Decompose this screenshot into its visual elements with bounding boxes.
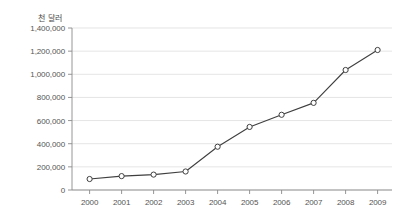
line-chart: 천 달러 0200,000400,000600,000800,0001,000,… [0, 0, 408, 221]
x-axis-tick-marks [90, 190, 378, 194]
series-line [90, 50, 378, 179]
axis-lines [72, 28, 392, 190]
gridlines [72, 28, 392, 190]
y-axis-tick-marks [68, 28, 72, 190]
series-markers [87, 47, 380, 181]
plot-area [0, 0, 408, 221]
